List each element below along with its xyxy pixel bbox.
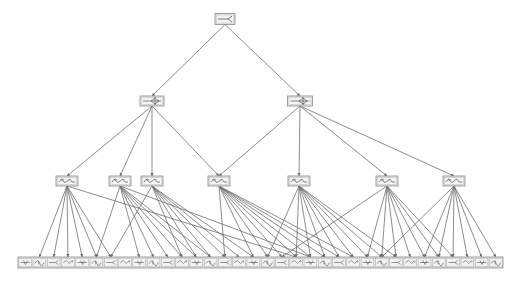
tree-leaf-node[interactable] [133,258,146,267]
tree-node-c3[interactable] [141,176,163,186]
edge-b-c4 [219,106,300,176]
edge-c1-leaf [67,186,68,257]
edge-c7-leaf [453,186,454,257]
tree-leaf-node[interactable] [104,258,117,267]
tree-node-c4[interactable] [208,176,230,186]
tree-leaf-node[interactable] [119,258,132,267]
tree-leaf-node[interactable] [161,258,174,267]
leaf-row [18,257,503,268]
tree-leaf-node[interactable] [318,258,331,267]
edge-root-b [225,25,300,97]
tree-leaf-node[interactable] [432,258,445,267]
tree-leaf-node[interactable] [147,258,160,267]
tree-node-c6[interactable] [376,176,398,186]
tree-leaf-node[interactable] [190,258,203,267]
tree-node-c7[interactable] [443,176,465,186]
tree-leaf-node[interactable] [375,258,388,267]
tree-leaf-node[interactable] [76,258,89,267]
edge-root-a [152,25,225,97]
edge-c6-leaf [387,186,410,257]
tree-leaf-node[interactable] [47,258,60,267]
tree-diagram [0,0,522,284]
edge-c3-leaf [152,186,225,257]
tree-leaf-node[interactable] [333,258,346,267]
tree-leaf-node[interactable] [261,258,274,267]
edge-c5-leaf [299,186,396,257]
edge-b-c6 [300,106,387,176]
tree-leaf-node[interactable] [233,258,246,267]
tree-leaf-node[interactable] [461,258,474,267]
tree-leaf-node[interactable] [176,258,189,267]
edge-c5-leaf [299,186,353,257]
tree-leaf-node[interactable] [247,258,260,267]
tree-node-b[interactable] [288,96,313,106]
tree-leaf-node[interactable] [447,258,460,267]
edge-c1-leaf [54,186,67,257]
tree-leaf-node[interactable] [62,258,75,267]
edge-a-c2 [120,106,152,176]
tree-leaf-node[interactable] [19,258,32,267]
tree-leaf-node[interactable] [347,258,360,267]
edge-c4-leaf [219,186,296,257]
nodes [18,14,503,269]
edge-c1-leaf [67,186,111,257]
edge-c1-leaf [67,186,82,257]
edge-c1-leaf [39,186,67,257]
tree-node-c1[interactable] [56,176,78,186]
tree-leaf-node[interactable] [390,258,403,267]
tree-node-root[interactable] [215,14,235,25]
tree-leaf-node[interactable] [304,258,317,267]
tree-leaf-node[interactable] [418,258,431,267]
tree-node-c5[interactable] [288,176,310,186]
edge-a-c4 [152,106,219,176]
edge-b-c5 [299,106,300,176]
tree-leaf-node[interactable] [290,258,303,267]
tree-leaf-node[interactable] [204,258,217,267]
tree-leaf-node[interactable] [276,258,289,267]
tree-leaf-node[interactable] [404,258,417,267]
edge-c7-leaf [454,186,482,257]
edges [39,25,495,258]
tree-leaf-node[interactable] [33,258,46,267]
edge-c1-leaf [67,186,96,257]
edge-c7-leaf [425,186,454,257]
edge-a-c1 [67,106,152,176]
tree-leaf-node[interactable] [361,258,374,267]
tree-node-c2[interactable] [109,176,131,186]
edge-b-c7 [300,106,454,176]
tree-node-a[interactable] [140,96,164,106]
tree-leaf-node[interactable] [490,258,503,267]
tree-leaf-node[interactable] [219,258,232,267]
edge-c7-leaf [439,186,454,257]
tree-leaf-node[interactable] [90,258,103,267]
tree-leaf-node[interactable] [475,258,488,267]
edge-c5-leaf [299,186,382,257]
